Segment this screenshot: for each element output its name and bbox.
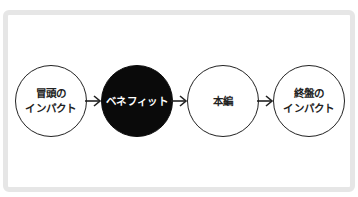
arrow-right-icon — [85, 95, 102, 107]
node-main-body: 本編 — [187, 65, 259, 137]
arrow-1 — [85, 95, 102, 107]
node-label-closing-impact: 終盤の インパクト — [283, 86, 335, 116]
arrow-right-icon — [257, 95, 274, 107]
node-label-main-body: 本編 — [213, 94, 234, 109]
arrow-3 — [257, 95, 274, 107]
node-label-opening-impact: 冒頭の インパクト — [25, 86, 77, 116]
arrow-2 — [171, 95, 188, 107]
node-closing-impact: 終盤の インパクト — [273, 65, 345, 137]
arrow-right-icon — [171, 95, 188, 107]
node-benefit: ベネフィット — [101, 65, 173, 137]
node-opening-impact: 冒頭の インパクト — [15, 65, 87, 137]
node-label-benefit: ベネフィット — [106, 94, 168, 109]
